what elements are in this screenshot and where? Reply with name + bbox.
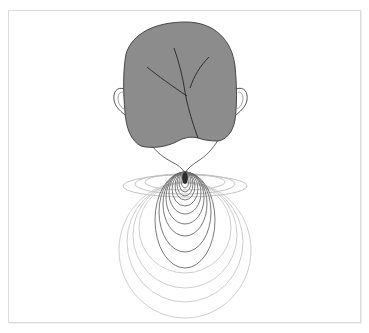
inner-contours xyxy=(155,172,215,268)
outer-contour xyxy=(139,183,231,273)
hair-shape xyxy=(124,22,237,147)
source-point xyxy=(182,172,188,184)
head-field-illustration xyxy=(0,0,369,333)
outer-contours xyxy=(119,182,251,318)
inner-contour xyxy=(155,172,215,268)
illustration-stage: back of head with field contour lines em… xyxy=(0,0,369,333)
outer-contour xyxy=(133,182,237,288)
outer-contour xyxy=(119,182,251,318)
right-ear-icon xyxy=(236,88,247,115)
